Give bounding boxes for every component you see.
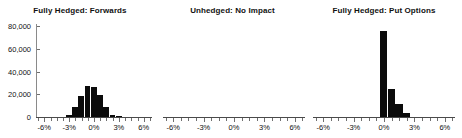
y-axis-line [36, 24, 37, 117]
x-axis-minor-tick [196, 118, 197, 121]
x-axis-tick-label: -6% [38, 123, 51, 132]
x-axis-tick-label: -6% [166, 123, 179, 132]
histogram-bar [110, 115, 116, 117]
x-axis-major-tick [264, 118, 265, 122]
x-axis-tick-label: 6% [138, 123, 149, 132]
x-axis-major-tick [119, 118, 120, 122]
x-axis-minor-tick [249, 118, 250, 121]
x-axis-minor-tick [181, 118, 182, 121]
x-axis-tick-label: -3% [347, 123, 360, 132]
histogram-bar [103, 107, 109, 117]
x-axis-tick-label: -3% [197, 123, 210, 132]
x-axis-minor-tick [138, 118, 139, 121]
x-axis-minor-tick [399, 118, 400, 121]
histogram-bar [78, 96, 84, 117]
x-axis-minor-tick [422, 118, 423, 121]
y-axis-tick-label: 40,000 [8, 67, 31, 76]
x-axis-major-tick [94, 118, 95, 122]
x-axis-minor-tick [106, 118, 107, 121]
x-axis-tick-label: 3% [259, 123, 270, 132]
x-axis-minor-tick [302, 118, 303, 121]
y-axis-tick-label: 60,000 [8, 44, 31, 53]
y-axis-tick-label: 0 [27, 113, 31, 122]
x-axis-tick-label: 3% [113, 123, 124, 132]
x-axis-minor-tick [272, 118, 273, 121]
x-axis-minor-tick [113, 118, 114, 121]
x-axis-major-tick [384, 118, 385, 122]
x-axis-minor-tick [57, 118, 58, 121]
y-axis-tick [37, 26, 40, 27]
x-axis-minor-tick [211, 118, 212, 121]
x-axis-tick-label: -3% [62, 123, 75, 132]
x-axis-minor-tick [280, 118, 281, 121]
x-axis-major-tick [234, 118, 235, 122]
panel-fully-hedged-put-options: Fully Hedged: Put Options -6%-3%0%3%6% [307, 0, 462, 138]
histogram-bar [72, 107, 78, 117]
y-axis-tick [37, 49, 40, 50]
histogram-bar [66, 115, 72, 117]
x-axis-minor-tick [287, 118, 288, 121]
histogram-bar [97, 95, 103, 117]
plot-area-put-options: -6%-3%0%3%6% [307, 0, 462, 138]
x-axis-minor-tick [38, 118, 39, 121]
plot-area-unhedged: -6%-3%0%3%6% [155, 0, 310, 138]
x-axis-tick-label: 6% [289, 123, 300, 132]
figure-histogram-panels: Fully Hedged: Forwards 80,00060,00040,00… [0, 0, 462, 138]
x-axis-minor-tick [452, 118, 453, 121]
x-axis-major-tick [295, 118, 296, 122]
x-axis-minor-tick [88, 118, 89, 121]
histogram-bar [116, 116, 122, 117]
x-axis-tick-label: -6% [316, 123, 329, 132]
x-axis-minor-tick [150, 118, 151, 121]
x-axis-minor-tick [407, 118, 408, 121]
x-axis-minor-tick [125, 118, 126, 121]
histogram-bar [380, 31, 387, 117]
x-axis-tick-label: 6% [439, 123, 450, 132]
x-axis-major-tick [44, 118, 45, 122]
x-axis-minor-tick [257, 118, 258, 121]
y-axis-tick-label: 80,000 [8, 22, 31, 31]
x-axis-major-tick [204, 118, 205, 122]
histogram-bar [388, 89, 395, 117]
x-axis-minor-tick [166, 118, 167, 121]
x-axis-tick-label: 0% [89, 123, 100, 132]
x-axis-minor-tick [242, 118, 243, 121]
x-axis-major-tick [323, 118, 324, 122]
y-axis-tick [37, 94, 40, 95]
x-axis-major-tick [414, 118, 415, 122]
panel-unhedged-no-impact: Unhedged: No Impact -6%-3%0%3%6% [155, 0, 310, 138]
x-axis-minor-tick [430, 118, 431, 121]
x-axis-minor-tick [82, 118, 83, 121]
x-axis-tick-label: 0% [229, 123, 240, 132]
x-axis-minor-tick [346, 118, 347, 121]
y-axis-tick [37, 72, 40, 73]
x-axis-minor-tick [219, 118, 220, 121]
x-axis-major-tick [144, 118, 145, 122]
x-axis-minor-tick [437, 118, 438, 121]
x-axis-major-tick [445, 118, 446, 122]
x-axis-major-tick [69, 118, 70, 122]
panel-fully-hedged-forwards: Fully Hedged: Forwards 80,00060,00040,00… [0, 0, 158, 138]
histogram-bar [395, 104, 402, 117]
x-axis-minor-tick [226, 118, 227, 121]
x-axis-tick-label: 3% [409, 123, 420, 132]
histogram-bar [403, 113, 410, 117]
x-axis-minor-tick [331, 118, 332, 121]
x-axis-minor-tick [361, 118, 362, 121]
x-axis-minor-tick [75, 118, 76, 121]
plot-area-forwards: 80,00060,00040,00020,0000-6%-3%0%3%6% [0, 0, 158, 138]
x-axis-major-tick [354, 118, 355, 122]
x-axis-minor-tick [338, 118, 339, 121]
x-axis-minor-tick [51, 118, 52, 121]
histogram-bar [91, 87, 97, 117]
x-axis-minor-tick [376, 118, 377, 121]
x-axis-tick-label: 0% [379, 123, 390, 132]
y-axis-tick-label: 20,000 [8, 90, 31, 99]
x-axis-minor-tick [131, 118, 132, 121]
x-axis-major-tick [173, 118, 174, 122]
x-axis-minor-tick [63, 118, 64, 121]
x-axis-minor-tick [392, 118, 393, 121]
x-axis-minor-tick [100, 118, 101, 121]
histogram-bar [85, 86, 91, 117]
x-axis-minor-tick [188, 118, 189, 121]
